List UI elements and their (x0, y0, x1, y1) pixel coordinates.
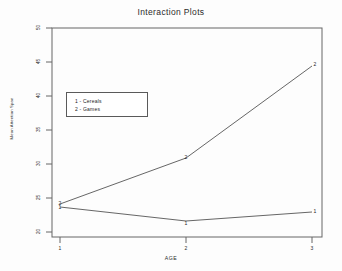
data-point-cereals-3: 1 (310, 207, 320, 215)
y-tick-label: 35 (36, 123, 41, 137)
x-tick-label: 1 (53, 245, 67, 251)
plot-area (0, 0, 342, 271)
y-tick-label: 45 (36, 55, 41, 69)
x-tick-marks (60, 237, 312, 243)
y-tick-label: 20 (36, 225, 41, 239)
legend-entry-cereals: 1 - Cereals (75, 98, 102, 104)
data-point-cereals-2: 1 (181, 219, 191, 227)
legend-entry-games: 2 - Games (75, 106, 100, 112)
data-point-games-2: 2 (181, 153, 191, 161)
legend: 1 - Cereals 2 - Games (66, 92, 148, 117)
data-point-games-1: 2 (55, 199, 65, 207)
y-tick-marks (46, 28, 52, 232)
plot-frame (52, 28, 322, 237)
x-tick-label: 3 (305, 245, 319, 251)
x-tick-label: 2 (179, 245, 193, 251)
y-tick-label: 25 (36, 191, 41, 205)
series-line-games (60, 66, 312, 204)
y-tick-label: 50 (36, 21, 41, 35)
chart-figure: Interaction Plots Mean Attention Span AG… (0, 0, 342, 271)
y-tick-label: 30 (36, 157, 41, 171)
data-point-games-3: 2 (310, 60, 320, 68)
y-tick-label: 40 (36, 89, 41, 103)
